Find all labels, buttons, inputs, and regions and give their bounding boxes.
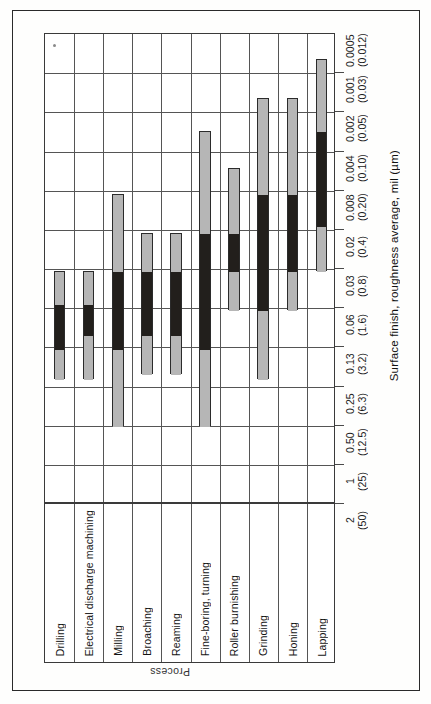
category-label-broaching: Broaching: [141, 607, 153, 656]
grid-line-vertical: [103, 34, 104, 502]
tick-label-micron: (0.012): [356, 34, 368, 68]
range-bar: [54, 271, 66, 379]
bar-segment-range: [142, 234, 152, 272]
tick-label-micron: (0.8): [356, 275, 368, 297]
bar-segment-range: [229, 272, 239, 311]
value-axis-tick-label: 2(50): [345, 499, 385, 542]
tick-label-micron: (12.5): [356, 428, 368, 456]
tick-label-micron: (0.03): [356, 76, 368, 104]
tick-label-mil: 0.50: [344, 432, 356, 453]
range-bar: [170, 233, 182, 374]
bar-segment-range: [317, 60, 327, 132]
category-divider: [307, 504, 308, 662]
tick-label-mil: 0.13: [344, 354, 356, 375]
bar-segment-range: [171, 234, 181, 272]
bar-segment-range: [200, 350, 210, 427]
category-divider: [220, 504, 221, 662]
bar-segment-range: [288, 99, 298, 195]
range-bar: [316, 59, 328, 271]
range-bar: [257, 98, 269, 379]
bar-segment-range: [200, 132, 210, 234]
category-label-electrical-discharge-machining: Electrical discharge machining: [83, 510, 95, 656]
bar-segment-range: [229, 169, 239, 234]
category-axis-band: DrillingElectrical discharge machiningMi…: [44, 503, 335, 663]
value-axis-tick-label: 0.50(12.5): [345, 421, 385, 464]
tick-label-micron: (0.05): [356, 115, 368, 143]
bar-segment-range: [84, 272, 94, 305]
value-axis-tick-label: 0.03(0.8): [345, 264, 385, 307]
tick-label-micron: (0.20): [356, 193, 368, 221]
bar-segment-range: [171, 336, 181, 375]
value-axis-tick: [335, 72, 344, 73]
value-axis-tick: [335, 111, 344, 112]
tick-label-mil: 0.001: [344, 76, 356, 103]
chart-plot-area: [44, 33, 335, 503]
bar-segment-range: [84, 336, 94, 380]
value-axis-tick-label: 0.001(0.03): [345, 68, 385, 111]
bar-segment-range: [288, 272, 298, 311]
range-bar: [112, 194, 124, 426]
category-label-milling: Milling: [112, 625, 124, 656]
category-label-roller-burnishing: Roller burnishing: [228, 575, 240, 656]
bar-segment-average: [229, 234, 239, 272]
tick-label-mil: 0.002: [344, 116, 356, 143]
tick-label-mil: 0.25: [344, 393, 356, 414]
tick-label-mil: 1: [344, 478, 356, 484]
bar-segment-average: [288, 195, 298, 272]
value-axis-tick: [335, 425, 344, 426]
bar-segment-average: [55, 305, 65, 350]
grid-line-vertical: [74, 34, 75, 502]
tick-label-mil: 0.004: [344, 155, 356, 182]
value-axis-tick: [335, 151, 344, 152]
value-axis-tick: [335, 503, 344, 504]
bar-segment-average: [142, 272, 152, 336]
range-bar: [199, 131, 211, 426]
tick-label-micron: (0.4): [356, 235, 368, 257]
value-axis-tick: [335, 229, 344, 230]
value-axis-tick-label: 1(25): [345, 460, 385, 503]
grid-line-horizontal: [45, 426, 334, 427]
category-label-honing: Honing: [287, 622, 299, 656]
range-bar: [228, 168, 240, 310]
category-divider: [278, 504, 279, 662]
grid-line-vertical: [307, 34, 308, 502]
value-axis-tick-label: 0.02(0.4): [345, 225, 385, 268]
tick-label-mil: 2: [344, 518, 356, 524]
grid-line-vertical: [161, 34, 162, 502]
tick-label-micron: (25): [356, 472, 368, 491]
tick-label-micron: (6.3): [356, 392, 368, 414]
print-speck-artifact: [53, 44, 56, 47]
value-axis-title: Surface finish, roughness average, mil (…: [388, 150, 400, 381]
bar-segment-range: [317, 227, 327, 272]
value-axis-tick: [335, 307, 344, 308]
category-label-grinding: Grinding: [257, 615, 269, 656]
tick-label-mil: 0.0005: [344, 34, 356, 67]
grid-line-vertical: [220, 34, 221, 502]
bar-segment-range: [258, 311, 268, 380]
tick-label-micron: (0.10): [356, 154, 368, 182]
category-label-fine-boring-turning: Fine-boring, turning: [199, 562, 211, 656]
grid-line-horizontal: [45, 73, 334, 74]
value-axis-tick-label: 0.06(1.6): [345, 303, 385, 346]
tick-label-micron: (50): [356, 511, 368, 530]
bar-segment-range: [258, 99, 268, 195]
bar-segment-average: [171, 272, 181, 336]
bar-segment-average: [317, 132, 327, 227]
value-axis-tick: [335, 190, 344, 191]
tick-label-mil: 0.03: [344, 275, 356, 296]
value-axis-tick-label: 0.0005(0.012): [345, 29, 385, 72]
bar-segment-range: [142, 336, 152, 375]
value-axis-tick-label: 0.008(0.20): [345, 186, 385, 229]
bar-segment-range: [55, 350, 65, 380]
category-divider: [132, 504, 133, 662]
tick-label-micron: (1.6): [356, 314, 368, 336]
category-label-reaming: Reaming: [170, 613, 182, 656]
value-axis-tick: [335, 386, 344, 387]
category-divider: [74, 504, 75, 662]
bar-segment-average: [258, 195, 268, 311]
tick-label-mil: 0.06: [344, 314, 356, 335]
grid-line-horizontal: [45, 387, 334, 388]
range-bar: [141, 233, 153, 374]
tick-label-mil: 0.008: [344, 194, 356, 221]
range-bar: [83, 271, 95, 379]
